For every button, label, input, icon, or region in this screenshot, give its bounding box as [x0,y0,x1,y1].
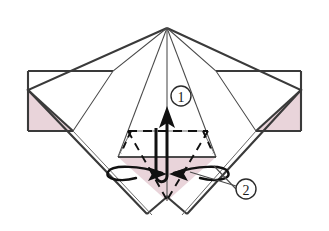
step-label-2: 2 [236,179,256,199]
step-label-1: 1 [171,86,191,106]
origami-fold-diagram: 1 2 [0,0,329,231]
step-label-2-text: 2 [243,183,250,198]
origami-diagram-root: 1 2 [0,0,329,231]
step-label-1-text: 1 [178,90,185,105]
